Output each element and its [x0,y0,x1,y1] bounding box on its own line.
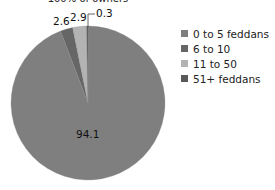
slice-label-6-to-10: 2.6 [53,15,70,27]
legend: 0 to 5 feddans 6 to 10 11 to 50 51+ fedd… [181,26,269,86]
legend-label: 51+ feddans [193,73,261,85]
legend-label: 11 to 50 [193,58,237,70]
slice-label-51-plus: 0.3 [96,7,113,19]
slice-label-0-to-5: 94.1 [76,128,99,140]
legend-swatch [181,60,188,67]
legend-item-6-to-10: 6 to 10 [181,41,269,56]
legend-label: 6 to 10 [193,43,230,55]
slice-label-11-to-50: 2.9 [70,11,87,23]
leader-line [88,14,95,27]
pie-slices [11,26,165,180]
legend-swatch [181,30,188,37]
legend-swatch [181,45,188,52]
legend-label: 0 to 5 feddans [193,28,269,40]
legend-swatch [181,75,188,82]
legend-item-51-plus: 51+ feddans [181,71,269,86]
legend-item-11-to-50: 11 to 50 [181,56,269,71]
legend-item-0-to-5: 0 to 5 feddans [181,26,269,41]
